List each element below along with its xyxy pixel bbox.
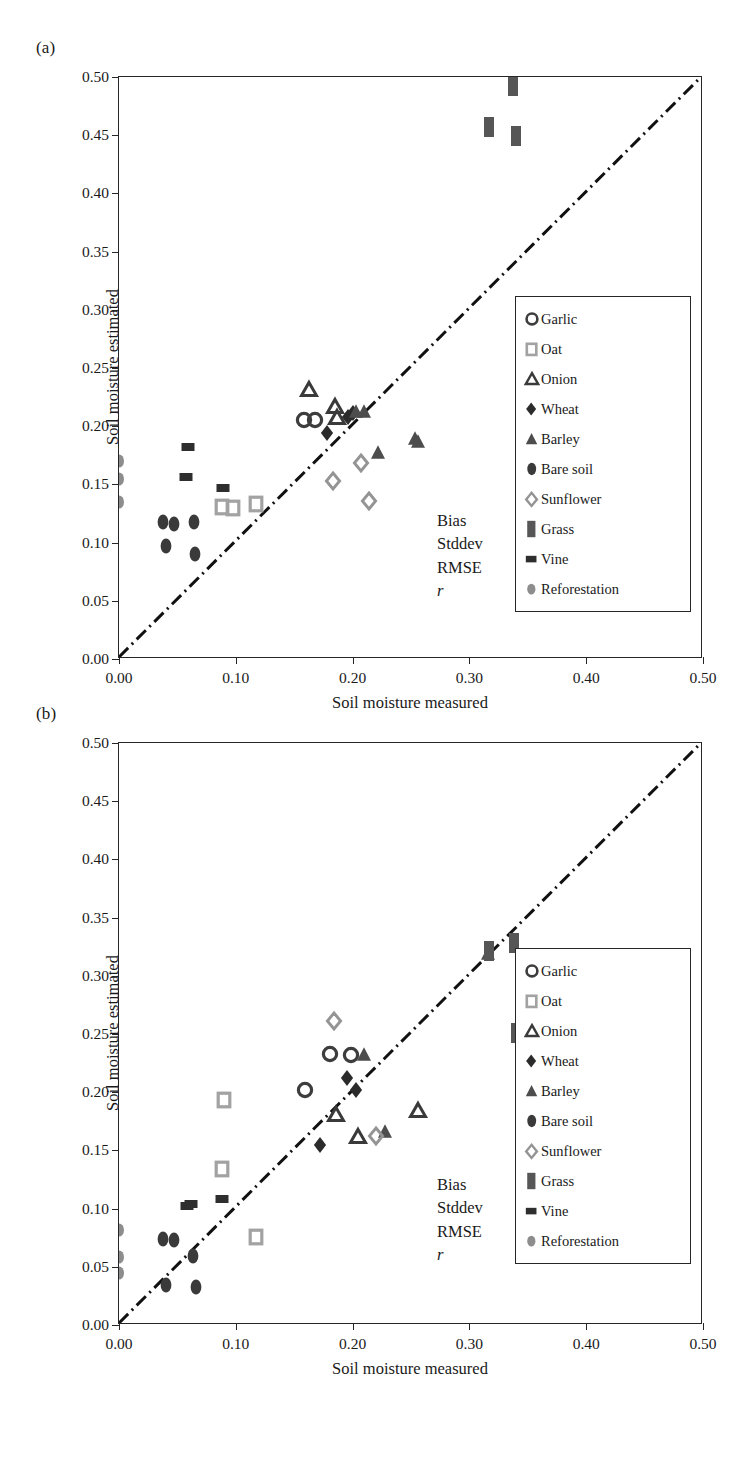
legend-label-wheat: Wheat bbox=[541, 1053, 579, 1070]
x-tick-label-a-3: 0.30 bbox=[456, 670, 483, 686]
x-tick-b-4 bbox=[586, 1323, 587, 1330]
data-point-sunflower bbox=[326, 1012, 342, 1030]
legend-item-vine[interactable]: Vine bbox=[523, 1196, 682, 1226]
vine-marker-icon bbox=[523, 549, 540, 569]
data-point-oat bbox=[248, 495, 264, 513]
panel-b: (b) Soil moisture estimated Soil moistur… bbox=[0, 700, 751, 1461]
data-point-reforestation bbox=[119, 1265, 126, 1280]
data-point-bare-soil bbox=[188, 546, 202, 563]
x-tick-label-a-2: 0.20 bbox=[339, 670, 366, 686]
y-tick-label-b-1: 0.05 bbox=[82, 1259, 109, 1275]
legend-item-barley[interactable]: Barley bbox=[523, 1076, 682, 1106]
legend-item-garlic[interactable]: Garlic bbox=[523, 956, 682, 986]
grass-marker-icon bbox=[523, 1171, 540, 1191]
legend-label-wheat: Wheat bbox=[541, 401, 579, 418]
legend-item-wheat[interactable]: Wheat bbox=[523, 1046, 682, 1076]
y-tick-label-a-2: 0.10 bbox=[82, 535, 109, 551]
x-tick-label-b-2: 0.20 bbox=[339, 1336, 366, 1352]
panel-a-label: (a) bbox=[36, 38, 55, 58]
stat-key-bias: Bias bbox=[437, 509, 513, 532]
data-point-onion bbox=[301, 381, 318, 397]
x-tick-a-1 bbox=[236, 657, 237, 664]
data-point-garlic bbox=[322, 1045, 339, 1062]
y-tick-b-6 bbox=[112, 976, 119, 977]
data-point-bare-soil bbox=[167, 515, 181, 532]
x-tick-a-2 bbox=[353, 657, 354, 664]
x-tick-label-b-3: 0.30 bbox=[456, 1336, 483, 1352]
x-tick-b-0 bbox=[119, 1323, 120, 1330]
legend-item-reforestation[interactable]: Reforestation bbox=[523, 1226, 682, 1256]
x-tick-label-b-5: 0.50 bbox=[689, 1336, 716, 1352]
sunflower-marker-icon bbox=[523, 1141, 540, 1161]
y-tick-a-10 bbox=[112, 77, 119, 78]
data-point-reforestation bbox=[119, 1222, 126, 1237]
legend-item-garlic[interactable]: Garlic bbox=[523, 304, 682, 334]
x-tick-label-b-4: 0.40 bbox=[573, 1336, 600, 1352]
plot-area-b: Soil moisture estimated Soil moisture me… bbox=[118, 742, 702, 1324]
legend-item-bare-soil[interactable]: Bare soil bbox=[523, 454, 682, 484]
data-point-oat bbox=[216, 1091, 232, 1109]
legend-item-onion[interactable]: Onion bbox=[523, 364, 682, 394]
x-tick-b-1 bbox=[236, 1323, 237, 1330]
y-tick-label-a-1: 0.05 bbox=[82, 593, 109, 609]
legend-item-oat[interactable]: Oat bbox=[523, 334, 682, 364]
data-point-oat bbox=[248, 1228, 264, 1246]
legend-item-bare-soil[interactable]: Bare soil bbox=[523, 1106, 682, 1136]
legend-label-grass: Grass bbox=[541, 1173, 574, 1190]
y-tick-a-3 bbox=[112, 484, 119, 485]
barley-marker-icon bbox=[523, 429, 540, 449]
y-tick-label-b-8: 0.40 bbox=[82, 852, 109, 868]
reforestation-marker-icon bbox=[523, 1231, 540, 1251]
y-tick-a-9 bbox=[112, 135, 119, 136]
x-tick-label-b-1: 0.10 bbox=[222, 1336, 249, 1352]
y-tick-a-5 bbox=[112, 368, 119, 369]
data-point-bare-soil bbox=[159, 538, 173, 555]
data-point-barley bbox=[410, 433, 426, 449]
legend-item-sunflower[interactable]: Sunflower bbox=[523, 484, 682, 514]
legend-item-sunflower[interactable]: Sunflower bbox=[523, 1136, 682, 1166]
legend-item-wheat[interactable]: Wheat bbox=[523, 394, 682, 424]
data-point-onion bbox=[410, 1102, 427, 1118]
legend-item-barley[interactable]: Barley bbox=[523, 424, 682, 454]
legend-label-reforestation: Reforestation bbox=[541, 581, 619, 598]
data-point-onion bbox=[328, 1106, 345, 1122]
y-tick-label-b-10: 0.50 bbox=[82, 735, 109, 751]
legend-item-reforestation[interactable]: Reforestation bbox=[523, 574, 682, 604]
y-tick-label-a-8: 0.40 bbox=[82, 186, 109, 202]
data-point-vine bbox=[178, 472, 193, 482]
data-point-garlic bbox=[296, 1081, 313, 1098]
y-tick-b-2 bbox=[112, 1209, 119, 1210]
stat-key-r: r bbox=[437, 1243, 513, 1266]
x-tick-b-3 bbox=[469, 1323, 470, 1330]
data-point-vine bbox=[184, 1199, 199, 1209]
data-point-bare-soil bbox=[159, 1277, 173, 1294]
y-tick-b-5 bbox=[112, 1034, 119, 1035]
y-tick-a-4 bbox=[112, 426, 119, 427]
y-tick-label-a-10: 0.50 bbox=[82, 69, 109, 85]
data-point-wheat bbox=[349, 1081, 364, 1098]
legend-item-onion[interactable]: Onion bbox=[523, 1016, 682, 1046]
legend-item-grass[interactable]: Grass bbox=[523, 514, 682, 544]
legend-label-reforestation: Reforestation bbox=[541, 1233, 619, 1250]
legend-item-vine[interactable]: Vine bbox=[523, 544, 682, 574]
data-point-oat bbox=[225, 499, 241, 517]
data-point-oat bbox=[214, 1160, 230, 1178]
legend-item-grass[interactable]: Grass bbox=[523, 1166, 682, 1196]
x-tick-a-4 bbox=[586, 657, 587, 664]
reforestation-marker-icon bbox=[523, 579, 540, 599]
legend-label-barley: Barley bbox=[541, 431, 580, 448]
y-tick-b-7 bbox=[112, 918, 119, 919]
stat-key-stddev: Stddev bbox=[437, 1196, 513, 1219]
legend-item-oat[interactable]: Oat bbox=[523, 986, 682, 1016]
y-tick-label-b-9: 0.45 bbox=[82, 793, 109, 809]
data-point-grass bbox=[510, 125, 523, 147]
stat-key-r: r bbox=[437, 579, 513, 602]
legend-label-garlic: Garlic bbox=[541, 963, 577, 980]
x-axis-title-b: Soil moisture measured bbox=[332, 1359, 488, 1379]
stat-key-rmse: RMSE bbox=[437, 556, 513, 579]
x-tick-label-b-0: 0.00 bbox=[105, 1336, 132, 1352]
data-point-reforestation bbox=[119, 494, 126, 509]
data-point-bare-soil bbox=[167, 1232, 181, 1249]
y-tick-label-b-4: 0.20 bbox=[82, 1084, 109, 1100]
y-tick-b-10 bbox=[112, 743, 119, 744]
